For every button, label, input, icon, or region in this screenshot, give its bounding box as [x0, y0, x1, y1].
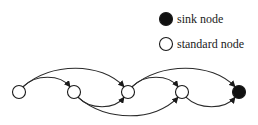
legend-label-standard: standard node — [177, 37, 244, 51]
legend-item-standard: standard node — [160, 37, 244, 51]
edge-n2-n4 — [78, 97, 178, 116]
sink-node-icon — [160, 13, 173, 26]
edge-n3-n5 — [132, 68, 235, 87]
standard-node-n3 — [122, 86, 135, 99]
legend-item-sink: sink node — [160, 12, 224, 26]
edge-n4-n5 — [186, 97, 235, 107]
nodes — [13, 86, 246, 99]
standard-node-n1 — [13, 86, 26, 99]
legend-label-sink: sink node — [177, 12, 223, 26]
standard-node-icon — [160, 38, 173, 51]
edge-n1-n3 — [23, 68, 124, 87]
graph-diagram: sink node standard node — [0, 0, 258, 125]
legend: sink node standard node — [160, 12, 244, 51]
standard-node-n2 — [68, 86, 81, 99]
standard-node-n4 — [176, 86, 189, 99]
sink-node-n5 — [233, 86, 246, 99]
